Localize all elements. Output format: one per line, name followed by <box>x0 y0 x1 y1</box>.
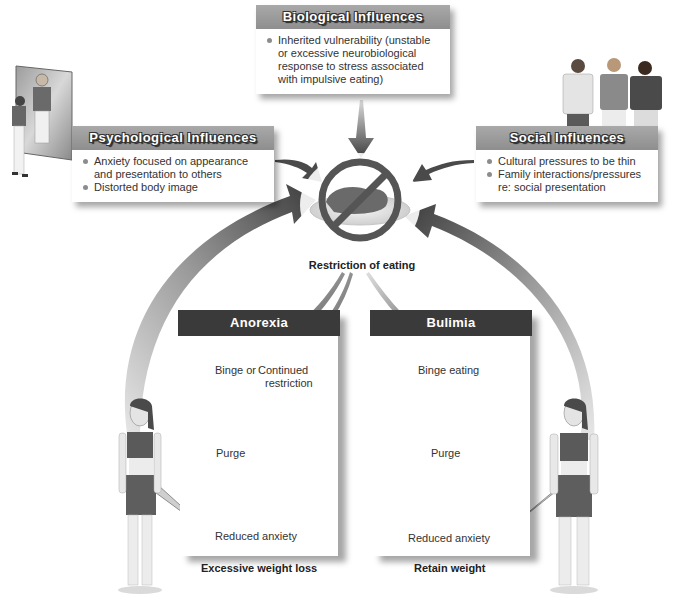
psychological-influence-item: Anxiety focused on appearance and presen… <box>82 155 266 181</box>
anorexia-continued-node: Continued <box>258 364 308 377</box>
bulimia-title: Bulimia <box>370 310 532 336</box>
person-looking-in-mirror-illustration <box>12 66 72 177</box>
arrow-bio-to-center <box>348 100 374 158</box>
anorexia-panel <box>180 312 338 556</box>
biological-influences-list: Inherited vulnerability (unstable or exc… <box>256 29 450 94</box>
arrow-social-to-center <box>412 160 474 182</box>
bulimia-reduced-anxiety-node: Reduced anxiety <box>408 532 490 545</box>
psychological-influences-box: Psychological Influences Anxiety focused… <box>72 126 274 202</box>
psychological-influence-item: Distorted body image <box>82 181 266 194</box>
no-food-prohibition-icon <box>300 153 420 257</box>
biological-influences-box: Biological Influences Inherited vulnerab… <box>256 5 450 94</box>
psychological-influences-list: Anxiety focused on appearance and presen… <box>72 150 274 202</box>
social-influence-item: Cultural pressures to be thin <box>486 155 650 168</box>
anorexia-outcome: Excessive weight loss <box>201 562 317 574</box>
anorexia-restriction-node: restriction <box>265 377 313 390</box>
bulimia-outcome: Retain weight <box>414 562 486 574</box>
bulimia-binge-eating-node: Binge eating <box>418 364 479 377</box>
diagram: Biological Influences Inherited vulnerab… <box>0 0 684 609</box>
anorexia-purge-node: Purge <box>216 447 245 460</box>
anorexia-title: Anorexia <box>178 310 340 336</box>
social-influences-title: Social Influences <box>476 126 658 150</box>
social-influences-list: Cultural pressures to be thin Family int… <box>476 150 658 202</box>
bulimia-purge-node: Purge <box>431 447 460 460</box>
anorexia-reduced-anxiety-node: Reduced anxiety <box>215 530 297 543</box>
anorexia-binge-node: Binge or <box>215 364 256 377</box>
three-people-group-illustration <box>563 58 662 126</box>
social-influences-box: Social Influences Cultural pressures to … <box>476 126 658 202</box>
social-influence-item: Family interactions/pressures re: social… <box>486 168 650 194</box>
biological-influence-item: Inherited vulnerability (unstable or exc… <box>266 34 442 86</box>
bulimia-panel <box>372 312 530 556</box>
restriction-of-eating-label: Restriction of eating <box>292 259 432 271</box>
psychological-influences-title: Psychological Influences <box>72 126 274 150</box>
biological-influences-title: Biological Influences <box>256 5 450 29</box>
